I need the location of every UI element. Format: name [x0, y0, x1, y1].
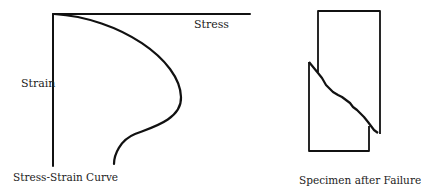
specimen-upper-piece	[318, 11, 380, 134]
specimen-lower-piece	[309, 62, 369, 151]
stress-axis-label: Stress	[194, 18, 229, 31]
strain-axis-label: Strain	[21, 77, 55, 90]
stress-strain-diagram	[53, 14, 250, 166]
specimen-diagram	[309, 11, 380, 151]
stress-strain-curve-caption: Stress-Strain Curve	[13, 171, 118, 183]
stress-strain-curve	[54, 14, 181, 164]
fracture-line	[309, 62, 378, 133]
specimen-caption: Specimen after Failure	[299, 174, 421, 186]
